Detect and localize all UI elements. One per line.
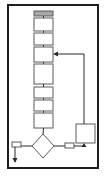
process-box	[34, 100, 53, 111]
arrow-up-icon	[82, 143, 87, 147]
process-box	[34, 33, 53, 45]
decision-diamond	[32, 134, 54, 158]
side-process-box	[76, 124, 95, 143]
process-box	[34, 64, 53, 84]
process-box	[34, 18, 53, 31]
feedback-line	[57, 54, 84, 124]
process-box	[34, 47, 53, 62]
right-connector-box	[65, 143, 74, 148]
arrow-left-icon	[53, 52, 58, 57]
process-box	[34, 87, 53, 98]
flowchart-diagram	[0, 0, 105, 177]
left-connector-box	[12, 142, 21, 147]
header-bar	[34, 11, 53, 16]
connector-line	[43, 128, 44, 134]
process-box	[34, 113, 53, 128]
arrow-down-icon	[13, 158, 18, 163]
